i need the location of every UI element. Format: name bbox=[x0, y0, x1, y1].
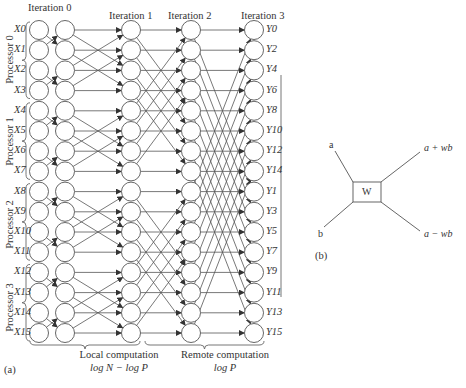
node-circle bbox=[56, 162, 75, 181]
node-circle bbox=[182, 243, 201, 262]
input-label-x5: X5 bbox=[14, 124, 26, 135]
node-circle bbox=[182, 182, 201, 201]
node-circle bbox=[122, 202, 141, 221]
node-circle bbox=[245, 81, 264, 100]
node-circle bbox=[30, 283, 49, 302]
iteration-0-label: Iteration 0 bbox=[28, 2, 71, 13]
node-circle bbox=[30, 223, 49, 242]
node-circle bbox=[56, 41, 75, 60]
input-b-line bbox=[324, 202, 353, 227]
output-label-y9: Y9 bbox=[266, 265, 277, 276]
output-label-y14: Y14 bbox=[266, 164, 282, 175]
node-circle bbox=[245, 202, 264, 221]
input-label-x3: X3 bbox=[14, 84, 26, 95]
output-label-y6: Y6 bbox=[266, 84, 277, 95]
node-circle bbox=[245, 243, 264, 262]
output-bottom-line bbox=[381, 202, 420, 231]
node-circle bbox=[245, 142, 264, 161]
input-label-x10: X10 bbox=[14, 225, 31, 236]
butterfly-unit-diagram bbox=[324, 151, 420, 231]
node-circle bbox=[30, 162, 49, 181]
node-circle bbox=[245, 122, 264, 141]
processor-3-label: Processor 3 bbox=[4, 273, 15, 343]
node-circle bbox=[56, 283, 75, 302]
node-circle bbox=[56, 21, 75, 40]
node-circle bbox=[56, 223, 75, 242]
output-bottom-label: a − wb bbox=[424, 228, 452, 239]
node-circle bbox=[122, 283, 141, 302]
input-label-x6: X6 bbox=[14, 144, 26, 155]
node-circle bbox=[182, 41, 201, 60]
node-circle bbox=[56, 243, 75, 262]
node-circle bbox=[182, 223, 201, 242]
iteration-2-label: Iteration 2 bbox=[168, 10, 211, 21]
node-circle bbox=[245, 324, 264, 343]
output-label-y8: Y8 bbox=[266, 104, 277, 115]
output-label-y5: Y5 bbox=[266, 225, 277, 236]
node-circle bbox=[30, 182, 49, 201]
node-circle bbox=[122, 243, 141, 262]
node-circle bbox=[122, 303, 141, 322]
node-circle bbox=[56, 263, 75, 282]
node-circle bbox=[122, 324, 141, 343]
node-circle bbox=[122, 263, 141, 282]
node-circle bbox=[30, 81, 49, 100]
node-circle bbox=[182, 263, 201, 282]
node-circle bbox=[30, 142, 49, 161]
node-circle bbox=[122, 142, 141, 161]
node-circle bbox=[56, 81, 75, 100]
processor-0-label: Processor 0 bbox=[4, 25, 15, 95]
node-circle bbox=[122, 182, 141, 201]
node-circle bbox=[30, 21, 49, 40]
node-circle bbox=[245, 223, 264, 242]
node-circle bbox=[182, 21, 201, 40]
node-circle bbox=[182, 122, 201, 141]
output-label-y13: Y13 bbox=[266, 306, 282, 317]
local-computation-label: Local computation bbox=[64, 349, 174, 360]
node-circle bbox=[182, 101, 201, 120]
input-b-label: b bbox=[318, 228, 323, 239]
node-circle bbox=[122, 101, 141, 120]
input-label-x13: X13 bbox=[14, 286, 31, 297]
node-circle bbox=[122, 21, 141, 40]
output-label-y7: Y7 bbox=[266, 245, 277, 256]
node-circle bbox=[122, 162, 141, 181]
node-circle bbox=[30, 122, 49, 141]
node-circle bbox=[245, 283, 264, 302]
node-circle bbox=[245, 263, 264, 282]
node-circle bbox=[245, 41, 264, 60]
node-circle bbox=[182, 142, 201, 161]
remote-computation-label: Remote computation bbox=[170, 349, 280, 360]
twiddle-label: W bbox=[362, 186, 371, 197]
node-circle bbox=[122, 223, 141, 242]
remote-computation-brace bbox=[145, 341, 264, 349]
node-circle bbox=[182, 324, 201, 343]
node-circle bbox=[30, 61, 49, 80]
node-circle bbox=[122, 81, 141, 100]
node-circle bbox=[182, 283, 201, 302]
node-circle bbox=[56, 61, 75, 80]
output-top-line bbox=[381, 152, 420, 182]
input-label-x2: X2 bbox=[14, 63, 26, 74]
output-label-y2: Y2 bbox=[266, 43, 277, 54]
iteration-3-label: Iteration 3 bbox=[241, 10, 284, 21]
node-circle bbox=[30, 202, 49, 221]
node-circle bbox=[56, 202, 75, 221]
node-circle bbox=[30, 243, 49, 262]
node-circle bbox=[30, 101, 49, 120]
butterfly-edges bbox=[47, 30, 251, 333]
remote-computation-formula: log P bbox=[170, 362, 280, 373]
node-circle bbox=[56, 324, 75, 343]
input-a-line bbox=[335, 151, 353, 182]
output-label-y3: Y3 bbox=[266, 205, 277, 216]
input-label-x1: X1 bbox=[14, 43, 26, 54]
input-label-x0: X0 bbox=[14, 23, 26, 34]
node-circle bbox=[122, 122, 141, 141]
output-label-y15: Y15 bbox=[266, 326, 282, 337]
panel-a-label: (a) bbox=[4, 364, 16, 375]
node-circle bbox=[56, 182, 75, 201]
input-label-x4: X4 bbox=[14, 104, 26, 115]
output-top-label: a + wb bbox=[424, 142, 452, 153]
node-circle bbox=[30, 41, 49, 60]
input-label-x11: X11 bbox=[14, 245, 30, 256]
